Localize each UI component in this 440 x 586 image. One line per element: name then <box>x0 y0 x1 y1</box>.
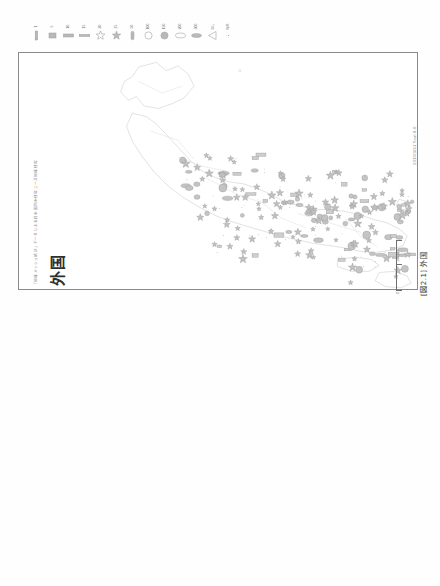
bar-icon <box>31 30 42 41</box>
map-subtitle-top: 「地域メッシュ統計」データによる日本国内本研究ニーズ地域研究 <box>33 160 38 286</box>
legend-label: 25 <box>114 25 119 29</box>
legend-label: N/R <box>226 24 231 30</box>
legend-item-rect-long[interactable]: 15 <box>79 24 90 41</box>
legend-item-star-open[interactable]: 20 <box>95 24 106 41</box>
circle-filled-icon <box>159 30 170 41</box>
legend-label: 20 <box>98 25 103 29</box>
ellipse-open-icon <box>175 30 186 41</box>
capsule-filled-icon <box>127 30 138 41</box>
legend-label: 15 <box>82 25 87 29</box>
rect-wide-icon <box>63 30 74 41</box>
legend-label: 100 <box>146 24 151 30</box>
scalebar-min-top: 0 <box>395 292 400 294</box>
legend-item-circle-filled[interactable]: 150 <box>159 24 170 41</box>
circle-open-icon <box>143 30 154 41</box>
figure-caption-top: [図2.1] 外国 <box>418 252 428 296</box>
dot-icon <box>223 30 234 41</box>
scalebar-max-top: 100km <box>395 250 400 262</box>
legend-item-square[interactable]: 5 <box>47 24 58 41</box>
map-scalebar-top: 0 100km <box>384 236 410 294</box>
legend-item-triangle-left[interactable]: なし <box>207 24 218 41</box>
triangle-left-icon <box>207 30 218 41</box>
map-legend-top: 151015202550100150200300なしN/R <box>31 24 234 41</box>
legend-item-star-filled[interactable]: 25 <box>111 24 122 41</box>
star-open-icon <box>95 30 106 41</box>
legend-label: 50 <box>130 25 135 29</box>
legend-item-dot[interactable]: N/R <box>223 24 234 41</box>
legend-item-capsule-filled[interactable]: 50 <box>127 24 138 41</box>
map-title-top: 外国 <box>46 254 67 286</box>
legend-item-rect-wide[interactable]: 10 <box>63 24 74 41</box>
figure-panel-top: 151015202550100150200300なしN/R 外国 「地域メッシュ… <box>0 0 440 300</box>
legend-label: 10 <box>66 25 71 29</box>
map-datestamp-top: 2019/3/31 Scal 8.0 <box>412 126 417 165</box>
rect-long-icon <box>79 30 90 41</box>
legend-label: なし <box>210 24 215 30</box>
legend-item-bar[interactable]: 1 <box>31 24 42 41</box>
legend-item-circle-open[interactable]: 100 <box>143 24 154 41</box>
scanned-page: 151015202550100150200300なしN/R 外国 「地域メッシュ… <box>0 0 440 586</box>
legend-label: 1 <box>34 26 39 28</box>
legend-label: 150 <box>162 24 167 30</box>
figure-panel-bottom: 15102050100200N/R 外 小島地域・地域点工業の実情及び日本国内ビ… <box>0 300 440 586</box>
star-filled-icon <box>111 30 122 41</box>
legend-label: 5 <box>50 26 55 28</box>
ellipse-filled-icon <box>191 30 202 41</box>
square-icon <box>47 30 58 41</box>
legend-item-ellipse-open[interactable]: 200 <box>175 24 186 41</box>
legend-label: 300 <box>194 24 199 30</box>
legend-label: 200 <box>178 24 183 30</box>
legend-item-ellipse-filled[interactable]: 300 <box>191 24 202 41</box>
map-frame-top[interactable] <box>18 52 418 290</box>
map-canvas-top <box>19 53 417 289</box>
